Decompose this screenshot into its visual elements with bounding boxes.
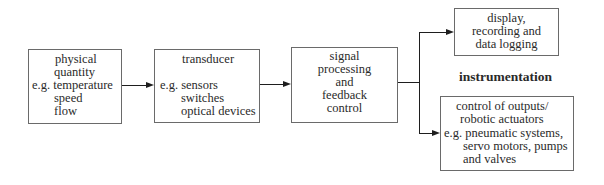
display-box: display, recording and data logging xyxy=(454,8,559,56)
arrow-to-control xyxy=(419,133,433,134)
arrowhead-icon xyxy=(432,130,440,136)
branch-vertical xyxy=(419,32,420,134)
transducer-line-3: optical devices xyxy=(181,105,256,119)
control-line-2: robotic actuators xyxy=(460,113,544,127)
control-box: control of outputs/ robotic actuators e.… xyxy=(440,96,574,171)
transducer-title: transducer xyxy=(182,53,234,67)
display-line-3: data logging xyxy=(455,38,558,52)
input-line-5: flow xyxy=(54,105,77,119)
control-line-5: and valves xyxy=(463,153,516,167)
arrow-to-display xyxy=(419,32,447,33)
arrow-transducer-to-processing xyxy=(260,84,284,85)
arrowhead-icon xyxy=(446,29,454,35)
arrowhead-icon xyxy=(146,82,154,88)
arrow-input-to-transducer xyxy=(122,85,147,86)
instrumentation-label: instrumentation xyxy=(459,69,552,85)
input-box: physical quantity e.g. temperature speed… xyxy=(28,49,122,124)
arrowhead-icon xyxy=(283,81,291,87)
processing-box: signal processing and feedback control xyxy=(291,47,398,123)
processing-line-5: control xyxy=(292,102,397,116)
transducer-box: transducer e.g. sensors switches optical… xyxy=(154,49,260,123)
branch-horizontal xyxy=(398,82,420,83)
